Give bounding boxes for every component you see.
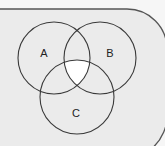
label-b: B <box>106 47 113 59</box>
label-a: A <box>40 47 48 59</box>
venn-diagram: A B C <box>0 0 165 146</box>
label-c: C <box>72 107 80 119</box>
